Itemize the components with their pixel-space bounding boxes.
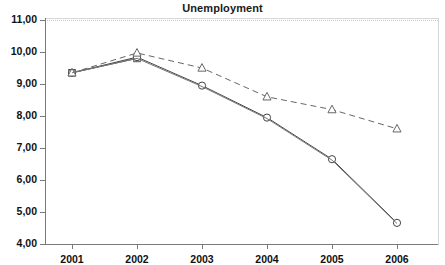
x-tick-label: 2003 [175,253,229,265]
x-tick-label: 2006 [370,253,424,265]
data-point-triangle-marker [328,105,336,113]
y-tick-label: 6,00 [0,173,37,185]
data-point-triangle-marker [133,49,141,57]
data-point-triangle-marker [393,124,401,132]
y-tick-label: 10,00 [0,45,37,57]
x-tick-label: 2002 [110,253,164,265]
x-tick-label: 2004 [240,253,294,265]
x-tick-label: 2005 [305,253,359,265]
plot-frame [46,19,439,245]
series-triangle [68,49,401,132]
x-tick-label: 2001 [45,253,99,265]
unemployment-chart: Unemployment 11,0010,009,008,007,006,005… [0,0,445,265]
series-line [72,53,397,129]
y-tick-label: 11,00 [0,13,37,25]
data-series-group [68,49,401,227]
y-tick-label: 8,00 [0,109,37,121]
axis-ticks [40,21,398,250]
series-none [72,58,397,223]
series-line [72,58,397,223]
y-tick-label: 4,00 [0,237,37,249]
y-tick-label: 5,00 [0,205,37,217]
data-point-circle-marker [328,156,335,163]
series-circle [68,54,400,227]
plot-area [0,0,445,265]
plot-border [45,19,439,245]
axis-lines [45,18,438,245]
y-tick-label: 7,00 [0,141,37,153]
y-tick-label: 9,00 [0,77,37,89]
data-point-triangle-marker [263,92,271,100]
